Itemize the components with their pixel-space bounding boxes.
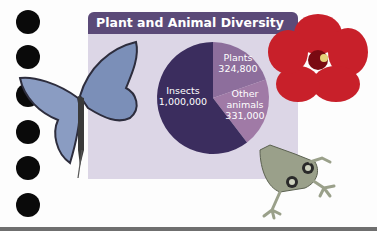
bottom-rule — [0, 227, 377, 231]
notebook-page: Plant and Animal Diversity Plants324,800… — [0, 0, 377, 228]
slice-label-plants: Plants324,800 — [218, 52, 257, 74]
pie-chart: Plants324,800Otheranimals331,000Insects1… — [0, 0, 377, 231]
